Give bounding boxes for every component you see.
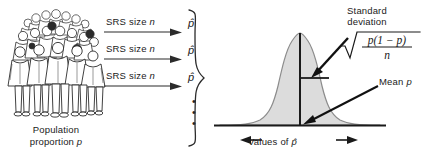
- srs-label-3: SRS size n: [106, 70, 155, 81]
- values-axis-label: Values of p̂: [248, 136, 297, 147]
- standard-deviation-label: Standard deviation: [334, 5, 400, 27]
- srs-arrow-3: [104, 82, 184, 91]
- mean-label: Mean p: [379, 76, 412, 87]
- srs-size-symbol-2: n: [150, 43, 155, 54]
- right-curly-brace: [186, 8, 208, 148]
- srs-label-1: SRS size n: [106, 16, 155, 27]
- crowd-of-people-illustration: [6, 4, 106, 122]
- sd-label-line2: deviation: [334, 16, 400, 27]
- sd-formula-denominator: n: [384, 49, 390, 61]
- mean-label-text: Mean: [379, 76, 406, 87]
- srs-arrow-2: [104, 55, 184, 64]
- values-axis-symbol: p̂: [292, 136, 297, 147]
- standard-deviation-formula: p(1 − p) n: [340, 28, 422, 62]
- population-caption-prefix: proportion: [30, 136, 77, 147]
- population-caption-line2: proportion p: [8, 136, 104, 148]
- population-caption: Population proportion p: [8, 124, 104, 148]
- srs-label-2: SRS size n: [106, 43, 155, 54]
- srs-row-3: SRS size n: [104, 70, 186, 92]
- srs-label-text-3: SRS size: [106, 70, 150, 81]
- srs-label-text-1: SRS size: [106, 16, 150, 27]
- srs-label-text-2: SRS size: [106, 43, 150, 54]
- values-axis-text: Values of: [248, 136, 292, 147]
- population-caption-line1: Population: [8, 124, 104, 136]
- srs-size-symbol-1: n: [150, 16, 155, 27]
- srs-arrow-1: [104, 28, 184, 37]
- srs-size-symbol-3: n: [150, 70, 155, 81]
- sd-label-line1: Standard: [334, 5, 400, 16]
- mean-symbol: p: [406, 76, 411, 87]
- sd-formula-numerator: p(1 − p): [367, 34, 407, 47]
- srs-row-1: SRS size n: [104, 16, 186, 38]
- srs-row-2: SRS size n: [104, 43, 186, 65]
- population-proportion-symbol: p: [77, 136, 82, 147]
- sampling-distribution-figure: Population proportion p SRS size n p̂ SR…: [0, 0, 433, 162]
